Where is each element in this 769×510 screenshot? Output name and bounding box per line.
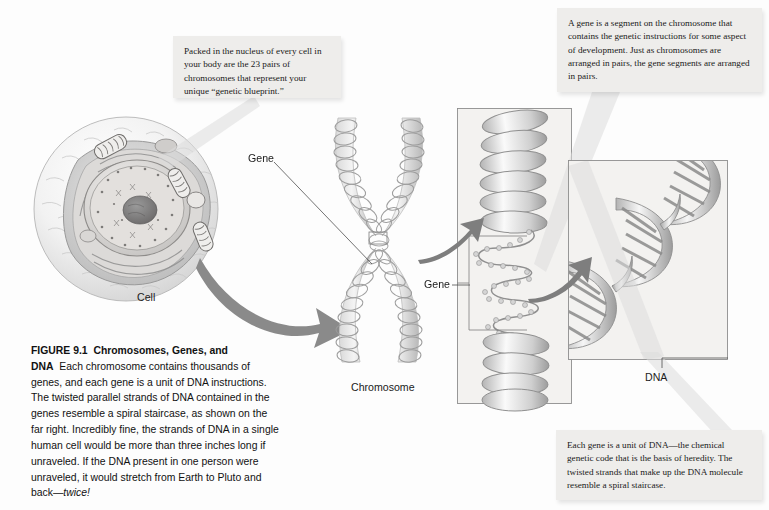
leader-line-gene-top xyxy=(272,160,382,270)
arrow-chromatin-to-dna xyxy=(528,255,594,303)
label-gene-mid: Gene xyxy=(424,278,450,290)
callout-gene: A gene is a segment on the chromosome th… xyxy=(557,8,762,92)
figure-caption-emphasis: twice! xyxy=(63,487,90,498)
figure-number: FIGURE 9.1 xyxy=(31,345,88,356)
label-gene-top: Gene xyxy=(248,152,274,164)
label-cell: Cell xyxy=(137,291,155,303)
leader-line-gene-mid xyxy=(452,283,470,287)
figure-caption: FIGURE 9.1 Chromosomes, Genes, and DNA E… xyxy=(31,343,281,501)
arrow-chromosome-to-chromatin xyxy=(418,218,486,264)
leader-line-dna xyxy=(662,356,728,370)
figure-caption-body: Each chromosome contains thousands of ge… xyxy=(31,361,279,499)
callout-pointer-beam-nucleus xyxy=(150,96,260,176)
label-chromosome: Chromosome xyxy=(351,381,415,393)
callout-nucleus: Packed in the nucleus of every cell in y… xyxy=(173,36,341,98)
label-dna: DNA xyxy=(645,371,667,383)
callout-dna: Each gene is a unit of DNA—the chemical … xyxy=(556,430,762,500)
figure-page: Packed in the nucleus of every cell in y… xyxy=(0,0,769,510)
